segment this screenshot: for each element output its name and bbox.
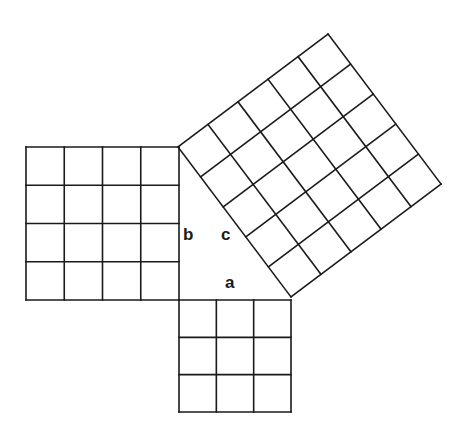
square-b-grid [26, 147, 179, 300]
label-a: a [225, 273, 235, 292]
label-b: b [183, 225, 193, 244]
pythagoras-diagram: b c a [0, 0, 465, 440]
square-a-grid [179, 300, 291, 412]
label-c: c [221, 225, 230, 244]
square-c-grid [178, 34, 441, 297]
